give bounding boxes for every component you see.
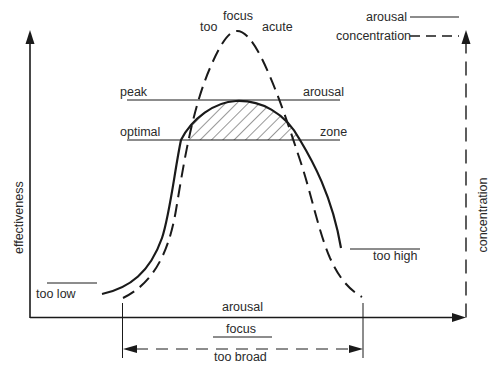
label-peak: peak [120,85,147,99]
y-axis-label-effectiveness: effectiveness [12,184,26,254]
arousal-concentration-diagram [0,0,493,374]
label-top-acute: acute [262,20,293,34]
x-axis-label: arousal [222,300,263,314]
concentration-curve [123,31,362,298]
legend-label-arousal: arousal [366,10,407,24]
label-zone: zone [320,125,347,139]
y-axis-effectiveness [26,30,35,318]
label-peak-arousal: arousal [303,85,344,99]
label-too-high: too high [373,249,417,263]
optimal-zone-hatch [170,95,310,145]
x-axis-arrow-icon [452,313,466,322]
bracket-right-arrow-icon [349,345,363,353]
label-top-focus: focus [223,9,253,23]
y-axis-concentration [462,30,471,318]
legend-label-concentration: concentration [336,29,411,43]
bracket-label-focus: focus [226,322,256,336]
label-top-too: too [200,20,217,34]
label-too-low: too low [36,287,76,301]
bracket-label-too-broad: too broad [214,350,267,364]
label-optimal: optimal [120,125,160,139]
bracket-left-arrow-icon [123,345,137,353]
right-axis-arrow-icon [462,30,471,44]
x-axis-arousal [30,313,466,322]
y-axis-label-concentration: concentration [476,172,490,258]
legend [410,17,459,36]
y-axis-arrow-icon [26,30,35,44]
